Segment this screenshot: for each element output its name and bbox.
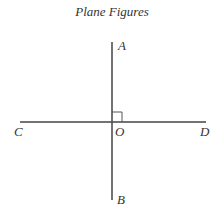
label-c: C — [14, 124, 23, 139]
label-a: A — [117, 38, 126, 53]
perpendicular-lines-diagram: A B C D O — [0, 0, 224, 223]
label-b: B — [117, 192, 125, 207]
right-angle-marker — [112, 112, 122, 122]
label-d: D — [199, 124, 210, 139]
label-o: O — [115, 124, 125, 139]
